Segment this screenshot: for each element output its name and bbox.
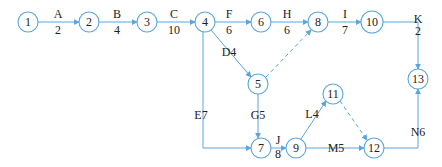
label-J-duration: 8 (275, 147, 281, 161)
svg-text:5: 5 (255, 77, 261, 91)
label-B-duration: 4 (114, 23, 120, 37)
node-13: 13 (408, 69, 428, 89)
node-6: 6 (251, 12, 271, 32)
svg-text:7: 7 (258, 141, 264, 155)
label-H: H (283, 7, 292, 21)
svg-text:4: 4 (202, 15, 208, 29)
edge-N (384, 89, 418, 148)
label-A-duration: 2 (55, 23, 61, 37)
label-H-duration: 6 (284, 23, 290, 37)
edge-K (383, 22, 418, 69)
network-diagram: A 2 B 4 C 10 F 6 H 6 I 7 K 2 D4 E7 G5 L4… (0, 0, 442, 167)
node-1: 1 (18, 12, 38, 32)
label-L4: L4 (305, 107, 318, 121)
label-B: B (113, 7, 121, 21)
label-D4: D4 (222, 45, 237, 59)
node-4: 4 (195, 12, 215, 32)
svg-text:8: 8 (315, 15, 321, 29)
svg-text:2: 2 (86, 15, 92, 29)
label-G5: G5 (251, 108, 266, 122)
svg-text:13: 13 (412, 72, 424, 86)
node-8: 8 (308, 12, 328, 32)
node-12: 12 (364, 138, 384, 158)
label-I-duration: 7 (342, 23, 348, 37)
node-3: 3 (137, 12, 157, 32)
node-9: 9 (286, 138, 306, 158)
nodes: 1 2 3 4 6 8 10 5 13 11 7 9 12 (18, 11, 428, 158)
label-A: A (54, 7, 63, 21)
label-M5: M5 (328, 141, 345, 155)
label-E7: E7 (194, 108, 207, 122)
svg-text:9: 9 (293, 141, 299, 155)
label-N6: N6 (411, 125, 426, 139)
svg-text:12: 12 (368, 141, 380, 155)
svg-text:6: 6 (258, 15, 264, 29)
svg-text:11: 11 (327, 87, 339, 101)
label-F: F (226, 7, 233, 21)
label-K-duration: 2 (415, 24, 421, 38)
edge-dummy-5-8 (266, 30, 311, 77)
svg-text:3: 3 (144, 15, 150, 29)
label-I: I (343, 7, 347, 21)
svg-text:1: 1 (25, 15, 31, 29)
node-7: 7 (251, 138, 271, 158)
node-5: 5 (248, 74, 268, 94)
label-C-duration: 10 (168, 23, 180, 37)
edges (38, 22, 418, 148)
label-C: C (170, 7, 178, 21)
label-J: J (276, 133, 281, 147)
node-2: 2 (79, 12, 99, 32)
label-F-duration: 6 (226, 23, 232, 37)
node-11: 11 (323, 84, 343, 104)
edge-dummy-11-12 (340, 101, 367, 140)
node-10: 10 (361, 11, 383, 33)
svg-text:10: 10 (366, 15, 378, 29)
